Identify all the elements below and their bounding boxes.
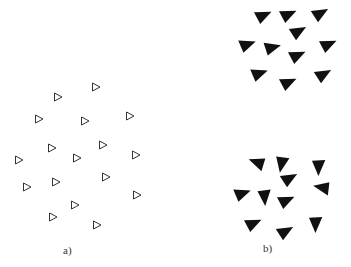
triangle-marker: [55, 93, 63, 101]
triangle-marker: [53, 178, 61, 186]
triangle-marker: [271, 154, 289, 174]
triangle-marker: [288, 48, 308, 65]
triangle-marker: [311, 5, 331, 23]
triangle-marker: [319, 37, 339, 54]
panel-b-filled-triangles: [233, 5, 339, 241]
triangle-marker: [94, 221, 102, 229]
triangle-marker: [238, 38, 257, 54]
triangle-marker: [49, 144, 57, 152]
triangle-marker: [244, 216, 264, 233]
triangle-marker: [82, 117, 90, 125]
triangle-marker: [72, 201, 80, 209]
triangle-marker: [307, 215, 323, 234]
panel-a-outline-triangles: [16, 83, 142, 229]
panel-a-label: a): [63, 244, 72, 256]
triangle-marker: [264, 41, 282, 55]
triangle-marker: [276, 223, 296, 241]
triangle-marker: [279, 7, 299, 24]
triangle-marker: [289, 23, 309, 41]
triangle-marker: [93, 83, 101, 91]
triangle-marker: [233, 187, 252, 203]
triangle-marker: [134, 191, 142, 199]
triangle-marker: [310, 158, 326, 177]
triangle-marker: [103, 173, 111, 181]
triangle-marker: [133, 151, 141, 159]
triangle-marker: [314, 66, 334, 84]
triangle-marker: [50, 213, 58, 221]
figure: [0, 0, 351, 267]
triangle-marker: [256, 188, 270, 206]
triangle-marker: [250, 67, 269, 83]
triangle-marker: [100, 141, 108, 149]
triangle-marker: [312, 177, 332, 195]
triangle-marker: [127, 112, 135, 120]
triangle-marker: [74, 154, 82, 162]
triangle-marker: [247, 152, 268, 172]
triangle-marker: [24, 183, 32, 191]
triangle-marker: [280, 170, 300, 188]
triangle-marker: [36, 115, 44, 123]
triangle-marker: [279, 75, 299, 92]
triangle-marker: [16, 156, 24, 164]
triangle-marker: [277, 193, 297, 210]
triangle-marker: [254, 8, 274, 25]
panel-b-label: b): [263, 242, 272, 254]
